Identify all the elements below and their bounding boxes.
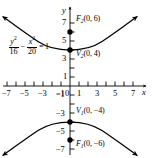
y-axis xyxy=(70,7,75,155)
label-vertex-lower: V1(0, −4) xyxy=(76,107,105,115)
x-tick-label-neg7: −7 xyxy=(2,89,11,98)
x-tick-label-neg3: −3 xyxy=(38,89,47,98)
point-focus-lower xyxy=(67,137,72,142)
label-focus-lower: F1(0, −6) xyxy=(76,140,105,148)
label-focus-upper: F2(0, 6) xyxy=(76,15,100,23)
equation-fraction-2: x2 20 xyxy=(27,38,37,56)
equation-operator: − xyxy=(21,43,26,51)
label-vertex-upper: V2(0, 4) xyxy=(76,50,100,58)
hyperbola-equation: y2 16 − x2 20 = 1 xyxy=(8,38,49,56)
vertex-upper-coords: (0, 4) xyxy=(83,49,100,58)
vertex-lower-coords: (0, −4) xyxy=(83,106,104,115)
x-tick-label-3: 3 xyxy=(95,89,99,98)
x-axis-label: x xyxy=(142,88,146,97)
equation-exponent-2: 2 xyxy=(32,35,35,41)
focus-lower-coords: (0, −6) xyxy=(83,139,104,148)
equation-right-side: 1 xyxy=(45,43,49,51)
focus-upper-coords: (0, 6) xyxy=(83,14,100,23)
equation-fraction-1: y2 16 xyxy=(9,38,19,56)
x-tick-label-5: 5 xyxy=(113,89,117,98)
y-tick-label-neg1: −1 xyxy=(56,90,65,99)
x-tick-label-7: 7 xyxy=(131,89,135,98)
y-tick-label-7: 7 xyxy=(62,18,66,27)
equation-denominator-2: 20 xyxy=(27,48,37,57)
y-tick-label-neg3: −3 xyxy=(56,109,65,118)
point-vertex-upper xyxy=(67,47,72,52)
x-tick-label-zero: 0 xyxy=(65,89,69,98)
coordinate-plane xyxy=(0,0,153,158)
y-tick-label-3: 3 xyxy=(62,54,66,63)
x-axis xyxy=(3,82,146,87)
y-tick-label-1: 1 xyxy=(63,72,67,81)
equation-denominator-1: 16 xyxy=(9,48,19,57)
equation-equals-sign: = xyxy=(39,43,44,51)
y-axis-label: y xyxy=(62,6,66,15)
point-focus-upper xyxy=(67,29,72,34)
x-tick-label-1: 1 xyxy=(77,89,81,98)
hyperbola-figure: y2 16 − x2 20 = 1 y x −7 −5 −3 −1 0 1 3 … xyxy=(0,0,153,158)
x-tick-label-neg5: −5 xyxy=(20,89,29,98)
equation-exponent-1: 2 xyxy=(14,35,17,41)
point-vertex-lower xyxy=(67,119,72,124)
y-tick-label-neg7: −7 xyxy=(56,145,65,154)
y-tick-label-5: 5 xyxy=(62,36,66,45)
y-tick-label-neg5: −5 xyxy=(56,127,65,136)
